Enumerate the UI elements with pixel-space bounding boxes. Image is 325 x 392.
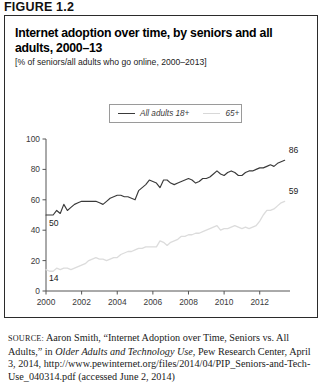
data-point-label: 59: [289, 186, 299, 196]
chart-title: Internet adoption over time, by seniors …: [15, 26, 305, 55]
source-note-publication-title: Older Adults and Technology Use: [55, 346, 193, 357]
legend-item-seniors: 65+: [203, 105, 239, 122]
y-axis-tick-label: 0: [35, 286, 40, 296]
x-axis-tick-label: 2002: [72, 297, 91, 307]
figure-number-label: FIGURE 1.2: [4, 0, 74, 14]
legend-label-all-adults: All adults 18+: [140, 109, 189, 118]
figure-container: FIGURE 1.2 Internet adoption over time, …: [0, 0, 325, 392]
legend-label-seniors: 65+: [225, 109, 239, 118]
y-axis-tick-label: 40: [31, 225, 41, 235]
chart-legend: All adults 18+ 65+: [109, 104, 242, 123]
line-chart-svg: 0204060801002000200220042006200820102012…: [5, 129, 319, 319]
y-axis-tick-label: 60: [31, 195, 41, 205]
legend-item-all-adults: All adults 18+: [118, 105, 189, 122]
data-point-label: 86: [289, 145, 299, 155]
chart-subtitle: [% of seniors/all adults who go online, …: [15, 57, 305, 68]
data-point-label: 50: [49, 218, 59, 228]
figure-panel: Internet adoption over time, by seniors …: [4, 15, 318, 318]
legend-line-swatch-icon: [203, 113, 220, 114]
source-note: source: Aaron Smith, “Internet Adoption …: [8, 332, 320, 383]
y-axis-tick-label: 20: [31, 256, 41, 266]
series-line-seniors: [46, 201, 285, 271]
chart-plot-area: 0204060801002000200220042006200820102012…: [5, 129, 319, 319]
data-point-label: 14: [49, 273, 59, 283]
x-axis-tick-label: 2010: [215, 297, 234, 307]
x-axis-tick-label: 2006: [144, 297, 163, 307]
x-axis-tick-label: 2000: [37, 297, 56, 307]
series-line-all-adults: [46, 160, 285, 215]
source-note-label: source:: [8, 334, 44, 343]
y-axis-tick-label: 80: [31, 164, 41, 174]
legend-line-swatch-icon: [118, 113, 135, 114]
y-axis-tick-label: 100: [26, 134, 40, 144]
x-axis-tick-label: 2008: [179, 297, 198, 307]
x-axis-tick-label: 2004: [108, 297, 127, 307]
x-axis-tick-label: 2012: [250, 297, 269, 307]
